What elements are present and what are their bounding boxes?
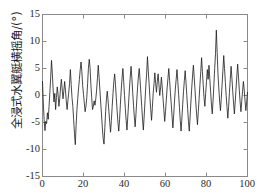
chart-figure: 全浸式水翼艇横摇角/(°) 15 10 5 0 -5 -10 -15 0 20 … [0,0,259,195]
data-series-line [43,30,248,144]
plot-area [0,0,259,195]
